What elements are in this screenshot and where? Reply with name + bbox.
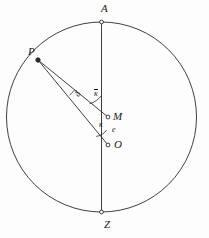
chord-line-PO: [38, 60, 108, 145]
label-point-z: Z: [104, 219, 110, 230]
label-point-a: A: [101, 3, 108, 14]
label-point-o: O: [114, 139, 122, 150]
point-marker-Z: [100, 210, 104, 214]
point-marker-O: [106, 143, 110, 147]
label-segment-e: e: [112, 126, 116, 134]
geometry-figure: A P M O Z e κ κ δ: [0, 0, 209, 238]
diagram-canvas: [0, 0, 209, 238]
label-point-p: P: [28, 46, 35, 57]
point-marker-M: [106, 115, 110, 119]
point-marker-A: [100, 20, 104, 24]
label-point-m: M: [113, 111, 122, 122]
label-angle-kappa: κ: [99, 121, 103, 129]
label-angle-kappa-bar-glyph: κ: [94, 89, 98, 98]
point-marker-P: [36, 58, 40, 62]
label-angle-kappa-bar: κ: [94, 89, 98, 98]
